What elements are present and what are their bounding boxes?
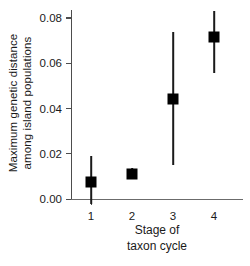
x-tick-label-2: 2 (129, 210, 135, 222)
data-point-stage-2 (127, 168, 138, 179)
y-axis-title-line-1: Maximum genetic distance (7, 33, 21, 172)
y-tick-label-0: 0.00 (40, 193, 62, 205)
y-axis-title: Maximum genetic distance among island po… (0, 0, 40, 205)
data-point-stage-1 (86, 176, 97, 187)
figure-panel: Maximum genetic distance among island po… (0, 0, 250, 266)
y-tick-3: 0.06 (66, 63, 71, 64)
y-tick-0: 0.00 (66, 199, 71, 200)
y-tick-label-2: 0.04 (40, 103, 62, 115)
plot-area: 0.00 0.02 0.04 0.06 0.08 1 2 3 4 (71, 10, 243, 200)
x-axis-title-line-1: Stage of (71, 222, 243, 238)
y-tick-label-3: 0.06 (40, 57, 62, 69)
y-axis-title-line-2: among island populations (20, 33, 34, 172)
data-point-stage-4 (209, 31, 220, 42)
x-axis-title: Stage of taxon cycle (71, 222, 243, 254)
x-axis-title-line-2: taxon cycle (71, 238, 243, 254)
x-tick-label-1: 1 (88, 210, 94, 222)
data-point-stage-3 (168, 93, 179, 104)
y-axis-line (71, 10, 72, 200)
x-axis-line (71, 199, 243, 200)
y-tick-2: 0.04 (66, 108, 71, 109)
y-tick-label-1: 0.02 (40, 148, 62, 160)
y-tick-4: 0.08 (66, 17, 71, 18)
y-tick-label-4: 0.08 (40, 12, 62, 24)
y-tick-1: 0.02 (66, 153, 71, 154)
x-tick-label-3: 3 (170, 210, 176, 222)
x-tick-label-4: 4 (211, 210, 217, 222)
